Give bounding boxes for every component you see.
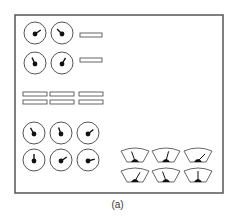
dial-icon (51, 22, 73, 44)
dial-icon (50, 149, 72, 171)
dial-icon (23, 149, 45, 171)
dial-icon (51, 52, 73, 74)
meter-gauge-icon (121, 148, 149, 162)
dial-icon (77, 149, 99, 171)
indicator-bar (23, 100, 47, 104)
indicator-bar (50, 100, 74, 104)
indicator-bar (80, 58, 102, 62)
instrument-panel-diagram (0, 0, 235, 221)
indicator-bar (79, 92, 103, 96)
dial-icon (50, 122, 72, 144)
dial-group-bottom (23, 122, 99, 171)
dial-icon (23, 122, 45, 144)
dial-icon (24, 22, 46, 44)
meter-gauge-icon (121, 168, 149, 182)
meter-gauge-icon (184, 168, 212, 182)
gauge-group (121, 148, 212, 182)
dial-icon (24, 52, 46, 74)
meter-gauge-icon (152, 148, 180, 162)
dial-group-top (24, 22, 73, 74)
meter-gauge-icon (184, 148, 212, 162)
dial-icon (77, 122, 99, 144)
indicator-bar (23, 92, 47, 96)
figure-caption: (a) (0, 199, 235, 210)
indicator-bar (80, 33, 102, 37)
meter-gauge-icon (152, 168, 180, 182)
indicator-bar (79, 100, 103, 104)
indicator-bar (50, 92, 74, 96)
